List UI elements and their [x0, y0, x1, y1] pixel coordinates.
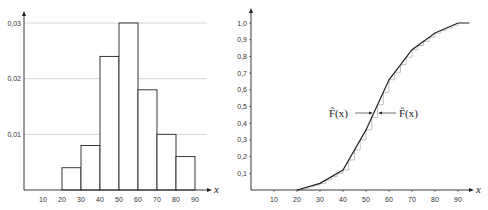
y-tick-label: 1,0 — [237, 20, 247, 27]
y-tick-label: 0,9 — [237, 36, 247, 43]
x-tick-label: 20 — [58, 196, 66, 203]
histogram-bar — [138, 90, 157, 190]
x-tick-label: 70 — [153, 196, 161, 203]
histogram-bar — [119, 23, 138, 190]
y-tick-label: 0,01 — [7, 131, 21, 138]
x-tick-label: 50 — [115, 196, 123, 203]
y-tick-label: 0,4 — [237, 120, 247, 127]
x-tick-label: 30 — [77, 196, 85, 203]
y-tick-label: 0,3 — [237, 136, 247, 143]
arrow-right-icon — [369, 112, 373, 115]
x-axis-label: x — [213, 183, 219, 195]
cdf-chart: 0,10,20,30,40,50,60,70,80,91,0x102030405… — [237, 8, 481, 203]
cdf-polygon-line — [297, 23, 470, 190]
y-tick-label: 0,8 — [237, 53, 247, 60]
histogram-bar — [81, 145, 100, 190]
histogram-chart: 0,010,020,03x102030405060708090 — [7, 11, 219, 203]
x-tick-label: 90 — [454, 196, 462, 203]
y-axis-arrow-icon — [249, 8, 253, 13]
x-tick-label: 90 — [191, 196, 199, 203]
annotation-step-label: F̂(x) — [399, 107, 418, 120]
x-tick-label: 50 — [362, 196, 370, 203]
y-axis-arrow-icon — [22, 11, 26, 16]
x-tick-label: 60 — [134, 196, 142, 203]
x-tick-label: 80 — [172, 196, 180, 203]
y-tick-label: 0,6 — [237, 86, 247, 93]
histogram-bar — [100, 56, 119, 190]
x-tick-label: 70 — [408, 196, 416, 203]
x-tick-label: 40 — [339, 196, 347, 203]
charts: 0,010,020,03x102030405060708090 0,10,20,… — [0, 0, 488, 210]
x-tick-label: 10 — [270, 196, 278, 203]
y-tick-label: 0,5 — [237, 103, 247, 110]
histogram-bar — [62, 168, 81, 190]
x-tick-label: 10 — [39, 196, 47, 203]
x-tick-label: 30 — [316, 196, 324, 203]
x-axis-arrow-icon — [469, 188, 474, 192]
x-tick-label: 40 — [96, 196, 104, 203]
y-tick-label: 0,7 — [237, 70, 247, 77]
y-tick-label: 0,1 — [237, 170, 247, 177]
x-axis-arrow-icon — [207, 188, 212, 192]
empirical-step-function — [297, 23, 458, 190]
x-axis-label: x — [475, 183, 481, 195]
y-tick-label: 0,02 — [7, 75, 21, 82]
histogram-bar — [157, 134, 176, 190]
histogram-bar — [176, 157, 195, 190]
y-tick-label: 0,03 — [7, 20, 21, 27]
x-tick-label: 60 — [385, 196, 393, 203]
y-tick-label: 0,2 — [237, 153, 247, 160]
x-tick-label: 20 — [293, 196, 301, 203]
x-tick-label: 80 — [431, 196, 439, 203]
annotation-polygon-label: F̃(x) — [329, 107, 348, 120]
